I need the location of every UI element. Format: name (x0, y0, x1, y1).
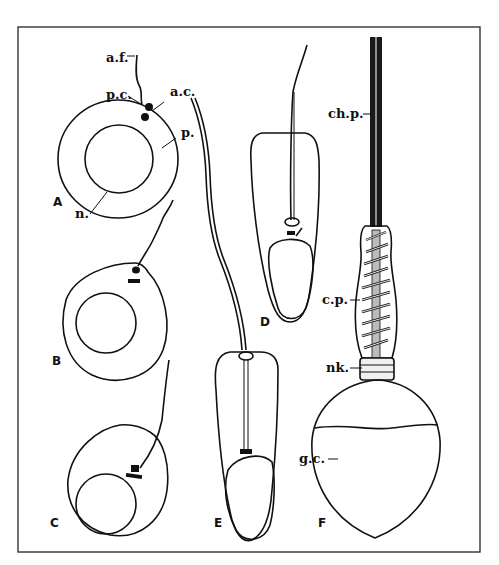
centriole-e (240, 449, 252, 454)
label-af: a.f. (106, 50, 129, 65)
cell-a-cytoplasm (58, 100, 178, 218)
centriole-d-arm (296, 228, 302, 236)
ring-centriole-d (285, 218, 299, 226)
head-boundary (315, 424, 438, 428)
cell-b-nucleus (76, 293, 136, 353)
cell-c-cytoplasm (68, 425, 168, 536)
panel-a: a.f. p.c. a.c. p. n. A (53, 50, 195, 221)
label-cp: c.p. (322, 292, 348, 307)
centriole-d (287, 231, 295, 235)
tail-e (191, 98, 242, 350)
neck (360, 358, 394, 380)
label-gc: g.c. (299, 451, 325, 466)
cell-d-cytoplasm (251, 133, 319, 322)
cell-e-nucleus (226, 456, 275, 539)
label-n: n. (75, 206, 89, 221)
centriole-c-1 (131, 465, 139, 472)
cell-a-nucleus (85, 125, 153, 193)
panel-f: ch.p. c.p. nk. g.c. F (299, 37, 440, 538)
panel-label-f: F (318, 516, 326, 530)
centriole-b-2 (128, 279, 140, 283)
cell-d-nucleus (269, 239, 313, 318)
label-ac: a.c. (170, 84, 195, 99)
centriole-b-1 (132, 267, 140, 274)
cell-e-cytoplasm (215, 352, 278, 541)
axial-filament-b (138, 200, 173, 266)
ring-centriole-e (239, 352, 253, 360)
panel-b: B (52, 200, 173, 380)
figure-frame (18, 27, 480, 552)
panel-label-e: E (214, 516, 222, 530)
anterior-centriole (145, 103, 153, 111)
axial-filament-a (136, 55, 142, 105)
label-nk: nk. (326, 360, 349, 375)
tail-e-inner (195, 98, 246, 350)
panel-label-b: B (52, 354, 61, 368)
panel-label-a: A (53, 195, 63, 209)
leader-n (90, 192, 107, 214)
spermatogenesis-diagram: a.f. p.c. a.c. p. n. A B C D (0, 0, 499, 565)
label-pc: p.c. (106, 87, 132, 102)
cell-c-nucleus (76, 474, 136, 534)
panel-c: C (50, 360, 169, 536)
label-chp: ch.p. (328, 106, 364, 121)
leader-p (162, 138, 176, 148)
panel-label-d: D (260, 315, 270, 329)
label-p: p. (181, 125, 195, 140)
panel-d: D (251, 45, 319, 329)
posterior-centriole (141, 113, 149, 121)
cell-b-cytoplasm (63, 263, 167, 380)
leader-ac (152, 102, 164, 111)
centriole-c-2 (126, 473, 142, 479)
panel-label-c: C (50, 516, 59, 530)
